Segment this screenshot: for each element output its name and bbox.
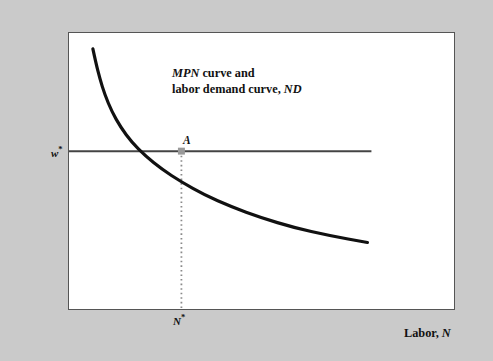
x-axis-label: Labor, N (404, 326, 451, 341)
point-a-label: A (183, 134, 191, 146)
economics-figure: Marginal product of labor, MPN Real wage… (0, 0, 493, 361)
mpn-curve-annotation-italic-2: ND (284, 82, 302, 96)
mpn-curve-annotation-plain-1: curve and (199, 66, 254, 80)
n-star-tick-label: N* (173, 312, 185, 327)
mpn-curve-annotation-line-2: labor demand curve, ND (172, 82, 302, 98)
plot-area: MPN curve and labor demand curve, ND A (68, 32, 455, 310)
mpn-curve-annotation: MPN curve and labor demand curve, ND (172, 66, 302, 97)
w-star-asterisk: * (58, 144, 62, 154)
n-star-asterisk: * (181, 312, 185, 322)
point-a-marker (178, 148, 185, 155)
x-axis-label-plain: Labor, (404, 326, 442, 340)
mpn-curve-annotation-plain-2: labor demand curve, (172, 82, 284, 96)
n-star-symbol: N (173, 315, 181, 327)
w-star-tick-label: w* (51, 144, 63, 159)
x-axis-label-italic: N (442, 326, 451, 340)
mpn-curve-annotation-line-1: MPN curve and (172, 66, 302, 82)
mpn-curve-annotation-italic-1: MPN (172, 66, 199, 80)
